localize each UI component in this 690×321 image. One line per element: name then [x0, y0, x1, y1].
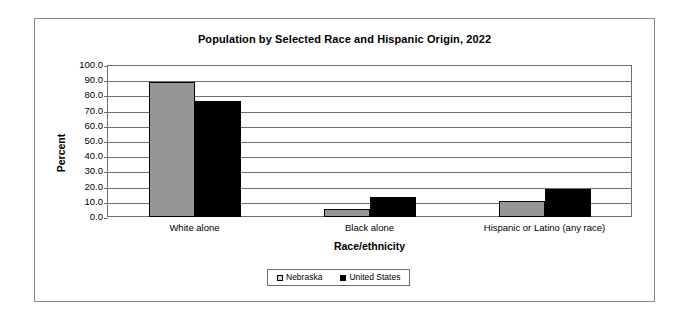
chart-title: Population by Selected Race and Hispanic…: [35, 33, 654, 45]
y-axis-tick-labels: 100.090.080.070.060.050.040.030.020.010.…: [59, 65, 103, 217]
bar-group: [324, 65, 416, 217]
y-tick-label: 60.0: [59, 121, 103, 131]
bars-layer: [107, 65, 632, 217]
y-tick-label: 40.0: [59, 151, 103, 161]
y-tick-label: 90.0: [59, 75, 103, 85]
bar-united-states: [195, 101, 241, 217]
y-tick-mark: [104, 218, 108, 219]
y-tick-label: 100.0: [59, 60, 103, 70]
x-axis-title: Race/ethnicity: [107, 240, 632, 252]
x-tick-label: Black alone: [282, 222, 457, 233]
legend-label: United States: [349, 273, 400, 282]
x-tick-label: White alone: [107, 222, 282, 233]
chart-legend: NebraskaUnited States: [267, 269, 410, 286]
bar-nebraska: [324, 209, 370, 217]
legend-entry: Nebraska: [277, 273, 322, 282]
y-tick-label: 70.0: [59, 106, 103, 116]
y-tick-label: 0.0: [59, 212, 103, 222]
y-tick-label: 10.0: [59, 197, 103, 207]
bar-united-states: [545, 189, 591, 217]
y-tick-label: 20.0: [59, 182, 103, 192]
y-tick-label: 30.0: [59, 166, 103, 176]
bar-nebraska: [499, 201, 545, 217]
legend-swatch-icon: [277, 275, 283, 281]
bar-group: [499, 65, 591, 217]
legend-swatch-icon: [340, 275, 346, 281]
bar-group: [149, 65, 241, 217]
bar-united-states: [370, 197, 416, 217]
legend-entry: United States: [340, 273, 400, 282]
chart-figure-frame: Population by Selected Race and Hispanic…: [34, 18, 655, 302]
x-axis-tick-labels: White aloneBlack aloneHispanic or Latino…: [107, 222, 632, 236]
legend-label: Nebraska: [286, 273, 322, 282]
y-tick-label: 80.0: [59, 90, 103, 100]
x-tick-label: Hispanic or Latino (any race): [457, 222, 632, 233]
y-tick-label: 50.0: [59, 136, 103, 146]
bar-nebraska: [149, 82, 195, 217]
